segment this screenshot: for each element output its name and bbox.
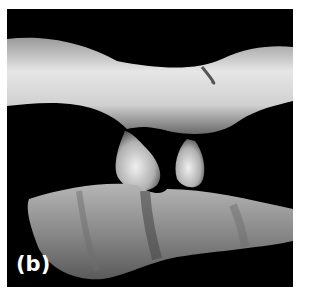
panel-label: (b) bbox=[16, 252, 50, 276]
upper-bone bbox=[7, 38, 293, 134]
lower-bone bbox=[28, 184, 293, 279]
bone-rendering bbox=[7, 9, 293, 287]
right-process bbox=[175, 139, 204, 187]
figure-panel: (b) bbox=[7, 9, 293, 287]
